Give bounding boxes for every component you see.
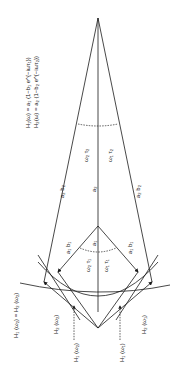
label-h1w2-eq-h2w2: H₁ (ω₂) = H₂ (ω₂) xyxy=(13,293,19,338)
cross-line-right xyxy=(116,255,158,320)
a2b2-left-line xyxy=(44,18,98,282)
label-a1b1-right: a₁ b₁ xyxy=(127,242,133,254)
label-omega2-tau2: ω₂ τ₂ xyxy=(83,148,89,162)
h1w1-vector xyxy=(98,272,138,328)
label-h2w2: H₂ (ω₂) xyxy=(53,315,59,334)
label-a2b2-right: a₂ b₂ xyxy=(135,184,141,198)
equation-h2: H₂(ω) = a₂ (1−b₂ e^{−iωτ₂}) xyxy=(33,56,39,128)
equation-h1: H₁(ω) = a₁ (1−b₁ e^{−iωτ₁}) xyxy=(25,57,31,128)
label-h1w1: H₁ (ω₁) xyxy=(119,343,125,362)
label-omega1-tau2: ω₁ τ₂ xyxy=(107,148,113,162)
label-a2b2-left: a₂ b₂ xyxy=(59,184,65,198)
label-a2-center: a₂ xyxy=(91,186,97,192)
label-a1-center: a₁ xyxy=(91,241,97,246)
label-omega2-tau1: ω₂ τ₁ xyxy=(85,259,91,272)
h1w2-vector xyxy=(58,272,98,328)
a1b1-left-line xyxy=(58,226,98,272)
label-omega1-tau1: ω₁ τ₁ xyxy=(103,259,109,272)
label-a1b1-left: a₁ b₁ xyxy=(65,242,71,254)
locus-arc-outer xyxy=(20,283,170,292)
label-h1w2: H₁ (ω₂) xyxy=(73,343,79,362)
vector-diagram: H₁(ω) = a₁ (1−b₁ e^{−iωτ₁}) H₂(ω) = a₂ (… xyxy=(0,0,173,366)
label-h2w1: H₂ (ω₁) xyxy=(141,315,147,334)
